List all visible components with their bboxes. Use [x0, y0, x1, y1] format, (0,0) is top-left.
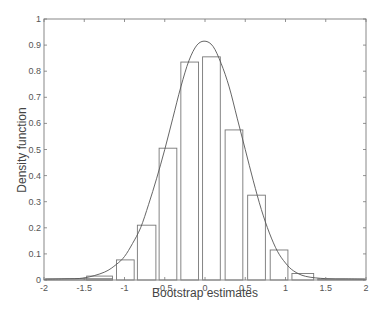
histogram-chart: -2-1.5-1-0.500.511.52 00.10.20.30.40.50.…	[0, 0, 386, 312]
x-tick-label: 1	[283, 283, 288, 293]
y-axis-label: Density function	[15, 107, 29, 192]
y-tick-label: 0.8	[28, 66, 41, 76]
histogram-bar	[159, 148, 177, 280]
histogram-bar	[225, 130, 243, 280]
x-tick-label: -1.5	[76, 283, 92, 293]
plot-frame	[44, 19, 366, 280]
y-tick-label: 1	[36, 14, 41, 24]
y-tick-label: 0.3	[28, 197, 41, 207]
x-tick-label: -2	[40, 283, 48, 293]
y-tick-label: 0.5	[28, 145, 41, 155]
histogram-bar	[137, 225, 156, 280]
histogram-bar	[292, 273, 314, 280]
x-tick-label: -1	[120, 283, 128, 293]
histogram-bars	[46, 57, 365, 280]
x-axis-label: Bootstrap estimates	[152, 286, 258, 300]
y-tick-label: 0.6	[28, 118, 41, 128]
x-axis-ticks: -2-1.5-1-0.500.511.52	[40, 19, 369, 293]
y-tick-label: 0.7	[28, 92, 41, 102]
histogram-bar	[203, 57, 221, 280]
y-tick-label: 0.9	[28, 40, 41, 50]
histogram-bar	[116, 260, 134, 280]
x-tick-label: 1.5	[319, 283, 332, 293]
y-axis-ticks: 00.10.20.30.40.50.60.70.80.91	[28, 14, 366, 285]
x-tick-label: 2	[363, 283, 368, 293]
y-tick-label: 0.2	[28, 223, 41, 233]
y-tick-label: 0.4	[28, 171, 41, 181]
histogram-bar	[248, 195, 266, 280]
density-curve	[44, 41, 366, 279]
y-tick-label: 0.1	[28, 249, 41, 259]
histogram-bar	[181, 62, 199, 280]
y-tick-label: 0	[36, 275, 41, 285]
